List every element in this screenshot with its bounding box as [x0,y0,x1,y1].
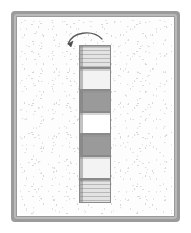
block-2[interactable] [79,68,111,90]
block-left-edge [80,46,83,67]
block-top-edge [80,46,110,48]
block-5[interactable] [79,134,111,156]
illustration-canvas [0,0,191,233]
block-stack [79,45,111,203]
block-left-edge [80,157,83,178]
block-4[interactable] [79,112,111,134]
block-top-edge [80,135,110,137]
block-3[interactable] [79,90,111,112]
block-6[interactable] [79,156,111,179]
block-left-edge [80,135,83,155]
block-1-top[interactable] [79,45,111,68]
block-left-edge [80,91,83,111]
block-top-edge [80,180,110,182]
block-top-edge [80,91,110,93]
block-left-edge [80,113,83,133]
block-top-edge [80,157,110,159]
block-left-edge [80,69,83,89]
block-7-bottom[interactable] [79,179,111,203]
block-top-edge [80,69,110,71]
block-top-edge [80,113,110,115]
block-left-edge [80,180,83,202]
